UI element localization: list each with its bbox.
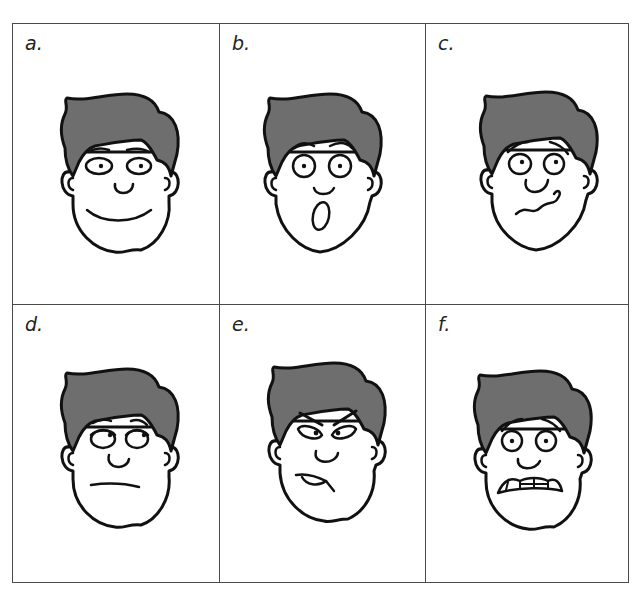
- angry-face-icon: [262, 361, 392, 526]
- panel-d: d.: [13, 305, 220, 582]
- emotion-faces-grid: a. b.: [12, 23, 629, 583]
- panel-label: a.: [25, 32, 43, 54]
- surprised-face-icon: [258, 92, 388, 257]
- panel-label: e.: [232, 313, 250, 335]
- confused-face-icon: [474, 90, 604, 255]
- scared-face-icon: [468, 369, 598, 534]
- panel-label: f.: [438, 313, 450, 335]
- smiling-face-icon: [55, 92, 185, 257]
- panel-f: f.: [426, 305, 628, 582]
- panel-e: e.: [220, 305, 426, 582]
- bored-face-icon: [55, 367, 185, 532]
- panel-a: a.: [13, 24, 220, 305]
- panel-label: b.: [232, 32, 250, 54]
- panel-label: c.: [438, 32, 455, 54]
- panel-label: d.: [25, 313, 43, 335]
- panel-b: b.: [220, 24, 426, 305]
- panel-c: c.: [426, 24, 628, 305]
